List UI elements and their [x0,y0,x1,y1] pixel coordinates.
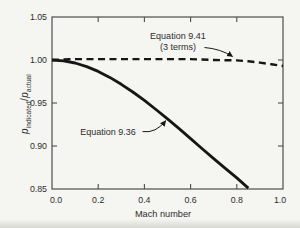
y-axis-title: pindicated/pactual [19,74,32,134]
eq-941-label: (3 terms) [160,42,196,52]
curve-equation-9-41-3-terms [52,59,283,66]
x-axis-title: Mach number [135,209,191,219]
y-axis-title-p-indicated: p [19,128,30,134]
eq-941-label: Equation 9.41 [150,31,206,41]
x-tick-label: 0.4 [138,195,150,205]
x-tick-label: 0.0 [50,195,62,205]
x-tick-label: 1.0 [274,195,286,205]
y-tick-label: 0.95 [30,98,47,108]
curve-equation-9-36 [52,60,248,188]
eq-936-label: Equation 9.36 [80,127,136,137]
y-tick-label: 1.05 [30,12,47,22]
x-tick-label: 0.2 [92,195,104,205]
eq-941-label-arrow [205,48,233,57]
chart-canvas: 0.00.20.40.60.81.00.850.900.951.001.05Ma… [0,0,300,228]
x-tick-label: 0.8 [231,195,243,205]
y-axis-title-sub-indicated: indicated [25,101,32,128]
y-tick-label: 1.00 [30,55,47,65]
y-axis-title-slash: / [19,98,30,102]
y-axis-title-p-actual: p [19,92,30,98]
y-tick-label: 0.90 [30,141,47,151]
x-tick-label: 0.6 [184,195,196,205]
scan-shadow-band [0,219,300,228]
eq-936-label-arrow [143,121,166,132]
y-axis-title-sub-actual: actual [25,74,32,92]
y-tick-label: 0.85 [30,184,47,194]
